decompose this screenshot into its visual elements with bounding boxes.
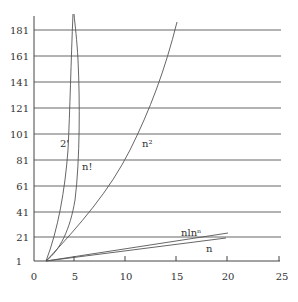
- label-factorial: n!: [82, 161, 92, 172]
- y-label-141: 141: [10, 77, 29, 88]
- y-label-21: 21: [16, 232, 29, 243]
- label-2n: 2': [60, 138, 69, 149]
- y-tick-labels: 181 161 141 121 101 81 61 41 21 1: [10, 25, 29, 267]
- x-label-5: 5: [72, 271, 78, 282]
- x-label-0: 0: [31, 271, 37, 282]
- x-tick-labels: 0 5 10 15 20 25: [31, 271, 289, 282]
- y-label-81: 81: [16, 155, 29, 166]
- y-label-61: 61: [16, 181, 29, 192]
- y-label-181: 181: [10, 25, 29, 36]
- label-n-squared: n²: [142, 138, 152, 149]
- y-label-121: 121: [10, 103, 29, 114]
- y-label-1: 1: [16, 256, 22, 267]
- label-nlogn: nlnⁿ: [181, 227, 201, 238]
- x-label-20: 20: [222, 271, 235, 282]
- curves: [46, 14, 228, 261]
- x-label-15: 15: [171, 271, 184, 282]
- label-n: n: [206, 243, 213, 254]
- y-label-41: 41: [16, 207, 29, 218]
- x-label-25: 25: [276, 271, 289, 282]
- complexity-chart: 181 161 141 121 101 81 61 41 21 1 0 5 10…: [0, 0, 298, 302]
- x-label-10: 10: [120, 271, 133, 282]
- x-ticks: [74, 256, 279, 261]
- curve-n: [46, 238, 226, 261]
- y-label-101: 101: [10, 129, 29, 140]
- y-label-161: 161: [10, 51, 29, 62]
